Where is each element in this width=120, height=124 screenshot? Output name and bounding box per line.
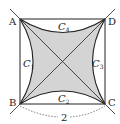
vertex-label-b: B (9, 97, 16, 108)
curve-label-c3: C3 (92, 58, 104, 70)
vertex-label-d: D (108, 16, 116, 27)
curve-label-c4: C4 (58, 21, 70, 33)
side-length-label: 2 (61, 112, 67, 123)
vertex-label-c: C (108, 97, 116, 108)
geometry-diagram: A D B C C4 C1 C3 C2 2 (0, 0, 120, 124)
vertex-label-a: A (8, 16, 17, 27)
curve-label-c2: C2 (58, 93, 70, 105)
